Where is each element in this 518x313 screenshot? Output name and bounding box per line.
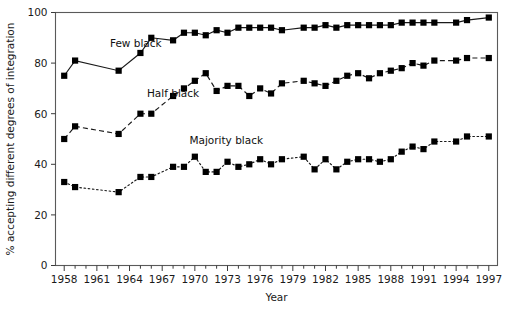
data-point — [181, 164, 187, 170]
data-point — [377, 22, 383, 28]
data-point — [214, 88, 220, 94]
data-point — [137, 111, 143, 117]
data-point — [301, 25, 307, 31]
data-point — [486, 55, 492, 61]
data-point — [399, 149, 405, 155]
y-tick-label: 60 — [34, 108, 47, 120]
data-point — [431, 57, 437, 63]
x-tick-label: 1985 — [345, 273, 372, 285]
data-point — [279, 80, 285, 86]
data-point — [224, 83, 230, 89]
data-point — [464, 133, 470, 139]
data-point — [148, 111, 154, 117]
data-point — [224, 159, 230, 165]
data-point — [366, 22, 372, 28]
data-point — [61, 179, 67, 185]
data-point — [181, 30, 187, 36]
data-point — [257, 85, 263, 91]
data-point — [453, 20, 459, 26]
data-point — [420, 20, 426, 26]
axes-layer: 0204060801001958196119641967197019731976… — [4, 6, 502, 302]
series-label: Majority black — [189, 134, 264, 146]
series-line — [64, 136, 489, 192]
data-point — [464, 55, 470, 61]
data-point — [246, 93, 252, 99]
x-tick-label: 1967 — [149, 273, 176, 285]
data-point — [61, 136, 67, 142]
data-point — [409, 143, 415, 149]
data-point — [344, 22, 350, 28]
x-tick-label: 1997 — [475, 273, 502, 285]
data-point — [344, 159, 350, 165]
data-point — [322, 83, 328, 89]
data-point — [72, 123, 78, 129]
data-point — [388, 22, 394, 28]
series-majority-black — [61, 133, 492, 195]
data-point — [279, 156, 285, 162]
line-chart: 0204060801001958196119641967197019731976… — [0, 0, 518, 313]
data-point — [377, 159, 383, 165]
y-tick-label: 20 — [34, 209, 47, 221]
data-point — [388, 156, 394, 162]
data-point — [116, 189, 122, 195]
data-point — [116, 68, 122, 74]
data-point — [72, 184, 78, 190]
data-point — [246, 25, 252, 31]
data-point — [257, 25, 263, 31]
data-point — [116, 131, 122, 137]
data-point — [453, 57, 459, 63]
data-point — [268, 161, 274, 167]
data-point — [137, 174, 143, 180]
x-tick-label: 1994 — [443, 273, 470, 285]
data-point — [235, 25, 241, 31]
data-point — [137, 50, 143, 56]
data-point — [409, 20, 415, 26]
data-point — [192, 78, 198, 84]
data-point — [388, 68, 394, 74]
data-point — [333, 25, 339, 31]
data-point — [312, 25, 318, 31]
x-tick-label: 1982 — [312, 273, 339, 285]
x-tick-label: 1970 — [181, 273, 208, 285]
data-point — [420, 63, 426, 69]
data-point — [322, 22, 328, 28]
data-point — [301, 154, 307, 160]
series-half-black — [61, 55, 492, 142]
data-point — [61, 73, 67, 79]
data-point — [301, 78, 307, 84]
data-point — [279, 27, 285, 33]
data-point — [344, 73, 350, 79]
data-point — [148, 174, 154, 180]
data-point — [246, 161, 252, 167]
data-point — [322, 156, 328, 162]
x-tick-label: 1973 — [214, 273, 241, 285]
y-tick-label: 80 — [34, 57, 47, 69]
data-point — [268, 90, 274, 96]
data-point — [192, 30, 198, 36]
data-point — [203, 32, 209, 38]
x-tick-label: 1961 — [84, 273, 111, 285]
data-point — [399, 65, 405, 71]
y-tick-label: 40 — [34, 158, 47, 170]
data-point — [464, 17, 470, 23]
y-tick-label: 100 — [27, 6, 47, 18]
data-point — [214, 169, 220, 175]
data-point — [312, 166, 318, 172]
data-point — [409, 60, 415, 66]
data-point — [377, 70, 383, 76]
data-point — [214, 27, 220, 33]
x-tick-label: 1988 — [377, 273, 404, 285]
data-point — [203, 70, 209, 76]
data-point — [268, 25, 274, 31]
data-point — [486, 14, 492, 20]
y-axis-title: % accepting different degrees of integra… — [4, 23, 16, 256]
data-point — [355, 22, 361, 28]
chart-figure: 0204060801001958196119641967197019731976… — [0, 0, 518, 313]
x-tick-label: 1964 — [116, 273, 143, 285]
data-point — [355, 156, 361, 162]
data-point — [333, 166, 339, 172]
data-point — [170, 37, 176, 43]
y-tick-label: 0 — [41, 259, 48, 271]
data-point — [235, 164, 241, 170]
data-point — [366, 156, 372, 162]
